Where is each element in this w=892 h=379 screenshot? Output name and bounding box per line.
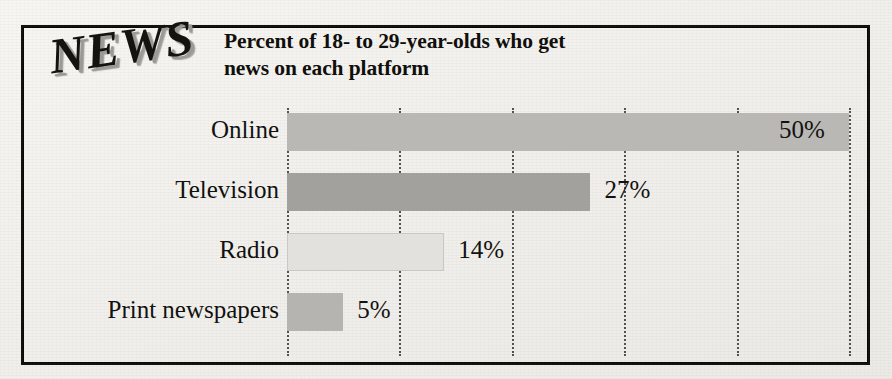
bar-radio[interactable] [287,233,444,271]
chart-title: Percent of 18- to 29-year-olds who get n… [224,28,654,83]
bar-value-label: 27% [604,171,650,209]
plot-area: 50%27%14%5% [287,108,849,356]
chart-title-line-1: Percent of 18- to 29-year-olds who get [224,28,654,55]
chart-area: NEWS Percent of 18- to 29-year-olds who … [0,0,892,379]
bar-television[interactable] [287,173,590,211]
category-label-online: Online [211,111,279,149]
bar-value-label: 50% [779,111,825,149]
bar-row: 27% [287,170,849,230]
category-label-television: Television [175,171,279,209]
bar-value-label: 14% [458,231,504,269]
bar-row: 14% [287,230,849,290]
category-axis-labels: OnlineTelevisionRadioPrint newspapers [30,108,279,356]
chart-title-line-2: news on each platform [224,55,654,82]
bar-row: 5% [287,290,849,350]
bar-value-label: 5% [357,291,390,329]
bar-row: 50% [287,110,849,170]
news-logo: NEWS [46,12,197,82]
bar-online[interactable] [287,113,849,151]
gridline-50 [849,108,851,356]
category-label-print-newspapers: Print newspapers [108,291,280,329]
category-label-radio: Radio [219,231,279,269]
bar-print-newspapers[interactable] [287,293,343,331]
